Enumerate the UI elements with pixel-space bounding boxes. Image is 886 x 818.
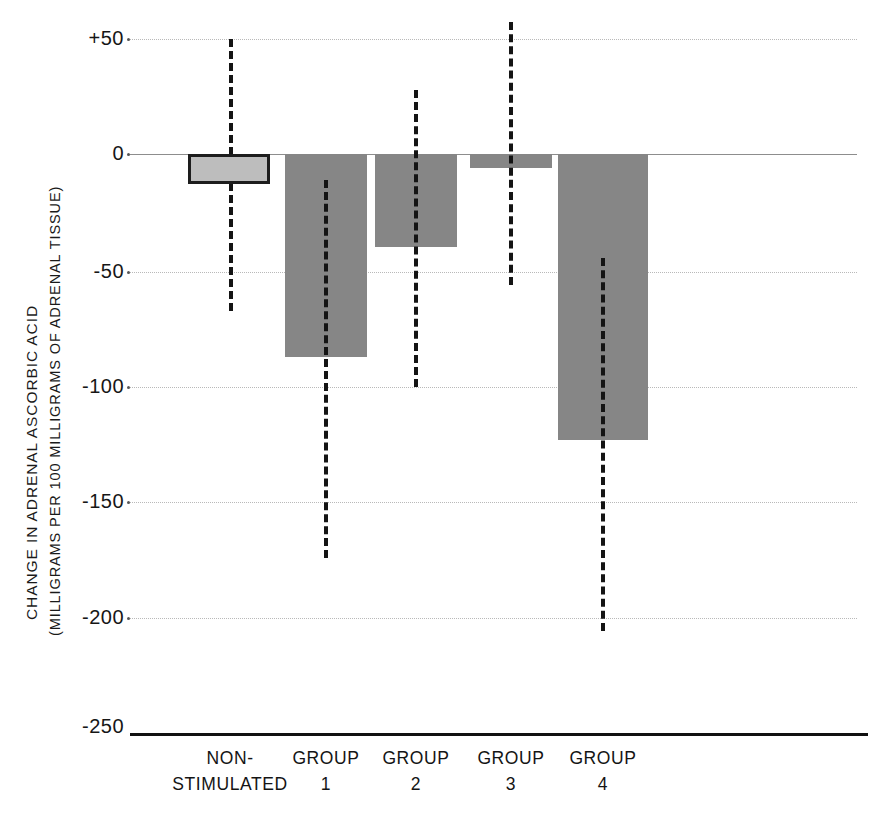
- y-tick-label-neg100: -100: [4, 375, 124, 398]
- bar-non-stimulated[interactable]: [188, 154, 270, 184]
- y-tick-label-neg50: -50: [4, 260, 124, 283]
- bar-chart: CHANGE IN ADRENAL ASCORBIC ACID (MILLIGR…: [0, 0, 886, 818]
- x-label-group-4: GROUP 4: [533, 745, 673, 797]
- gridline-50: [130, 39, 857, 40]
- y-tick-label-neg150: -150: [4, 490, 124, 513]
- error-bar-group-4: [601, 258, 605, 631]
- gridline-neg50: [130, 272, 857, 273]
- y-tick-label-50: +50: [4, 27, 124, 50]
- y-tick-label-0: 0: [4, 142, 124, 165]
- axis-baseline: [130, 733, 868, 736]
- error-bar-group-3: [509, 22, 513, 285]
- gridline-neg100: [130, 387, 857, 388]
- x-label-group-4-line-1: GROUP: [533, 745, 673, 771]
- x-axis-labels: NON- STIMULATED GROUP 1 GROUP 2 GROUP 3 …: [130, 745, 870, 815]
- y-tick-label-neg250: -250: [4, 715, 124, 738]
- y-axis-ticks: +50 0 -50 -100 -150 -200 -250: [0, 0, 124, 760]
- gridline-neg150: [130, 502, 857, 503]
- plot-area: [130, 0, 870, 760]
- error-bar-group-1: [324, 180, 328, 558]
- x-label-group-4-line-2: 4: [533, 771, 673, 797]
- gridline-neg200: [130, 618, 857, 619]
- y-tick-label-neg200: -200: [4, 606, 124, 629]
- error-bar-group-2: [414, 90, 418, 387]
